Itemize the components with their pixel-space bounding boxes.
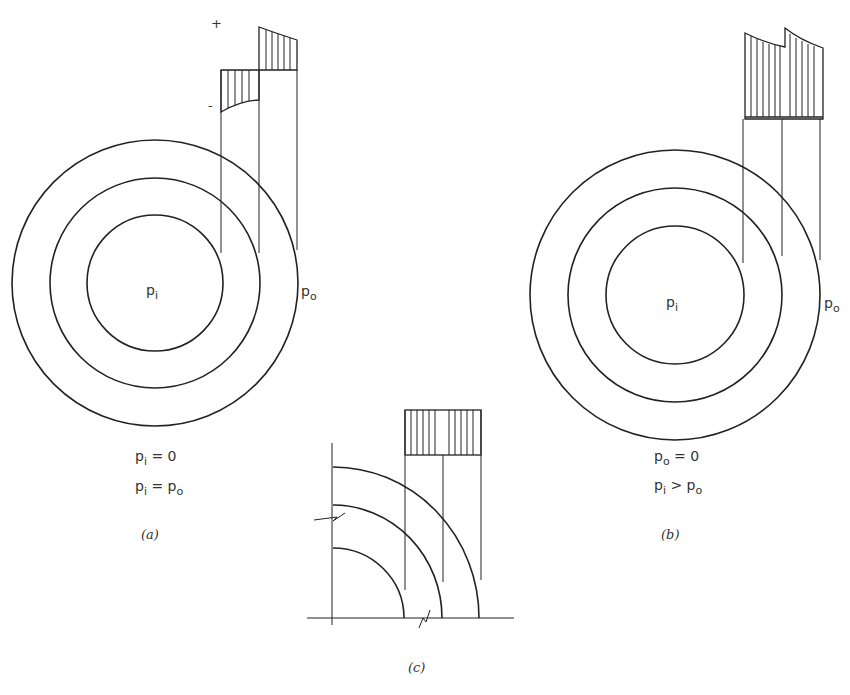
figure-a-condition-1: pi = 0 (135, 448, 177, 468)
figure-b-projection-lines (743, 119, 820, 263)
figure-b-caption: (b) (661, 527, 679, 542)
diagram-canvas (0, 0, 850, 695)
figure-c-quarter-section (307, 443, 514, 628)
figure-a-caption: (a) (141, 527, 159, 542)
figure-b-condition-2: pi > po (654, 477, 702, 497)
figure-a-plus-sign: + (211, 16, 222, 31)
figure-a-stress-distribution (221, 27, 297, 112)
figure-b-stress-distribution (745, 28, 823, 119)
figure-b-inner-pressure-label: pi (666, 294, 678, 314)
figure-a-minus-sign: - (208, 98, 213, 113)
figure-c-caption: (c) (408, 660, 425, 675)
figure-a-inner-pressure-label: pi (146, 282, 158, 302)
figure-b-outer-pressure-label: po (824, 295, 840, 315)
figure-b-condition-1: po = 0 (654, 448, 699, 468)
figure-c-stress-distribution (405, 410, 481, 455)
figure-a-outer-pressure-label: po (301, 283, 317, 303)
figure-a-condition-2: pi = po (135, 478, 183, 498)
